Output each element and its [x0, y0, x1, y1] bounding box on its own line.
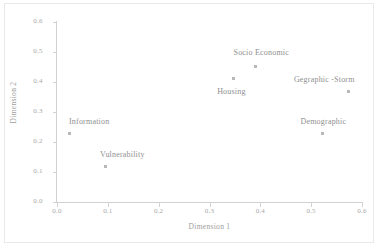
x-tick-label-wrap: 0.5: [296, 207, 326, 217]
x-tick-label-wrap: 0.3: [195, 207, 225, 217]
data-point-label: Demographic: [300, 116, 346, 125]
data-point-marker: [68, 132, 71, 135]
data-point-marker: [347, 90, 350, 93]
x-tick-label: 0.6: [347, 207, 377, 215]
x-tick-label: 0.4: [245, 207, 275, 215]
data-point-label: Vulnerability: [100, 150, 145, 159]
y-tick-label: 0.2: [26, 137, 50, 145]
x-tick-label: 0.3: [195, 207, 225, 215]
y-tick-label-wrap: 0.0: [0, 197, 50, 207]
y-tick-label: 0.5: [26, 47, 50, 55]
y-tick-label-wrap: 0.1: [0, 167, 50, 177]
y-tick-label-wrap: 0.5: [0, 47, 50, 57]
x-tick-label: 0.0: [42, 207, 72, 215]
scatter-plot-figure: 0.00.10.20.30.40.50.6 0.00.10.20.30.40.5…: [0, 0, 379, 249]
y-tick-label: 0.4: [26, 77, 50, 85]
y-tick-label-wrap: 0.4: [0, 77, 50, 87]
x-tick-label: 0.2: [144, 207, 174, 215]
x-axis-title: Dimension 1: [57, 222, 362, 231]
x-tick-label-wrap: 0.6: [347, 207, 377, 217]
y-axis-title: Dimension 2: [9, 63, 18, 143]
data-point-marker: [321, 132, 324, 135]
y-tick-label: 0.0: [26, 197, 50, 205]
y-tick-label-wrap: 0.2: [0, 137, 50, 147]
y-tick-label: 0.1: [26, 167, 50, 175]
x-tick-label-wrap: 0.0: [42, 207, 72, 217]
x-tick-label-wrap: 0.4: [245, 207, 275, 217]
data-point-marker: [254, 65, 257, 68]
data-point-label: Gegraphic -Storm: [294, 74, 355, 83]
x-tick-label: 0.1: [93, 207, 123, 215]
x-tick-label: 0.5: [296, 207, 326, 215]
y-tick-label-wrap: 0.3: [0, 107, 50, 117]
plot-area: [57, 22, 362, 202]
x-tick-label-wrap: 0.2: [144, 207, 174, 217]
data-point-label: Housing: [217, 87, 246, 96]
x-tick-label-wrap: 0.1: [93, 207, 123, 217]
data-point-marker: [104, 165, 107, 168]
y-tick-label: 0.6: [26, 17, 50, 25]
data-point-label: Socio Economic: [234, 48, 289, 57]
y-tick-label-wrap: 0.6: [0, 17, 50, 27]
data-point-label: Information: [69, 117, 109, 126]
y-tick-label: 0.3: [26, 107, 50, 115]
data-point-marker: [232, 77, 235, 80]
